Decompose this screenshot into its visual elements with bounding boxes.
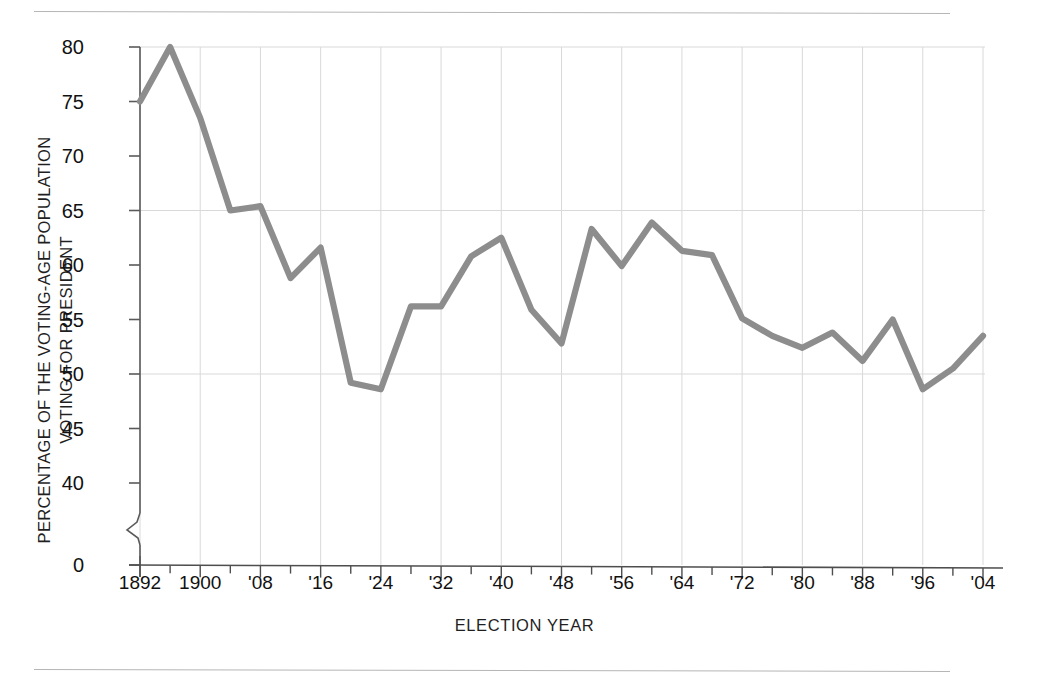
x-tick-label-1956: '56 xyxy=(609,572,634,594)
y-tick-label-55: 55 xyxy=(38,308,84,331)
y-tick-label-0: 0 xyxy=(38,554,84,577)
x-tick-label-1940: '40 xyxy=(489,572,514,594)
y-axis-break-symbol xyxy=(127,513,140,545)
x-tick-label-1996: '96 xyxy=(910,572,935,594)
x-tick-label-1980: '80 xyxy=(790,572,815,594)
x-tick-label-1892: 1892 xyxy=(119,572,161,594)
x-tick-label-1924: '24 xyxy=(368,572,393,594)
x-tick-label-1932: '32 xyxy=(429,572,454,594)
x-tick-label-1988: '88 xyxy=(850,572,875,594)
x-tick-label-2004: '04 xyxy=(971,572,996,594)
y-tick-label-80: 80 xyxy=(38,36,84,59)
x-tick-label-1908: '08 xyxy=(248,572,273,594)
x-tick-label-1964: '64 xyxy=(670,572,695,594)
x-tick-label-1948: '48 xyxy=(549,572,574,594)
axis-lines-group xyxy=(127,47,1003,568)
vertical-gridlines-group xyxy=(140,47,983,565)
y-tick-label-45: 45 xyxy=(38,417,84,440)
y-tick-label-65: 65 xyxy=(38,199,84,222)
y-tick-label-75: 75 xyxy=(38,90,84,113)
figure-container: PERCENTAGE OF THE VOTING-AGE POPULATION … xyxy=(0,0,1049,686)
y-tick-label-40: 40 xyxy=(38,472,84,495)
axis-ticks-group xyxy=(129,47,983,580)
x-tick-label-1900: 1900 xyxy=(179,572,221,594)
y-tick-label-70: 70 xyxy=(38,145,84,168)
x-tick-label-1916: '16 xyxy=(308,572,333,594)
x-tick-label-1972: '72 xyxy=(730,572,755,594)
gridlines-group xyxy=(140,47,985,374)
y-tick-label-50: 50 xyxy=(38,363,84,386)
y-tick-label-60: 60 xyxy=(38,254,84,277)
